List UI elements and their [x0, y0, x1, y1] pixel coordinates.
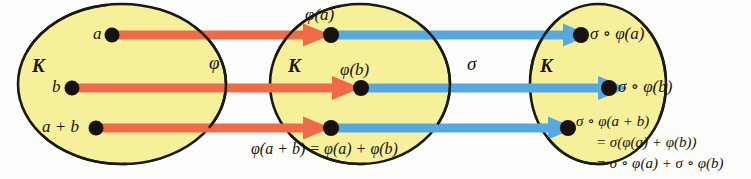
set-middle-label: K: [288, 56, 301, 75]
equation-phi-additive: φ(a + b) = φ(a) + φ(b): [251, 141, 398, 157]
map-sigma-label: σ: [467, 54, 476, 73]
dot-b: [65, 81, 80, 96]
dot-sigma-phi-a-plus-b: [560, 120, 576, 136]
dot-phi-b: [353, 80, 369, 96]
element-label-phi-a: φ(a): [305, 6, 334, 23]
element-label-a: a: [93, 25, 102, 42]
dot-sigma-phi-b: [601, 80, 617, 96]
element-label-a-plus-b: a + b: [42, 118, 79, 135]
equation-sigma-line2: = σ(φ(a) + φ(b)): [596, 135, 696, 150]
element-label-phi-b: φ(b): [340, 61, 369, 78]
dot-a: [105, 28, 120, 43]
equation-sigma-line1: σ ∘ φ(a + b): [576, 114, 649, 129]
dot-phi-a: [323, 27, 339, 43]
homomorphism-diagram: K K K φ σ a b a + b φ(a) φ(b) φ(a + b) =…: [0, 0, 751, 179]
set-left-label: K: [32, 56, 45, 75]
dot-a-plus-b: [89, 121, 104, 136]
element-label-b: b: [52, 78, 61, 95]
set-right-label: K: [540, 56, 553, 75]
element-label-sigma-phi-a: σ ∘ φ(a): [590, 25, 644, 42]
map-phi-label: φ: [209, 53, 220, 72]
equation-sigma-line3: = σ ∘ φ(a) + σ ∘ φ(b): [596, 156, 724, 171]
dot-sigma-phi-a: [573, 27, 589, 43]
element-label-sigma-phi-b: σ ∘ φ(b): [618, 78, 672, 95]
dot-phi-a-plus-b: [323, 120, 339, 136]
